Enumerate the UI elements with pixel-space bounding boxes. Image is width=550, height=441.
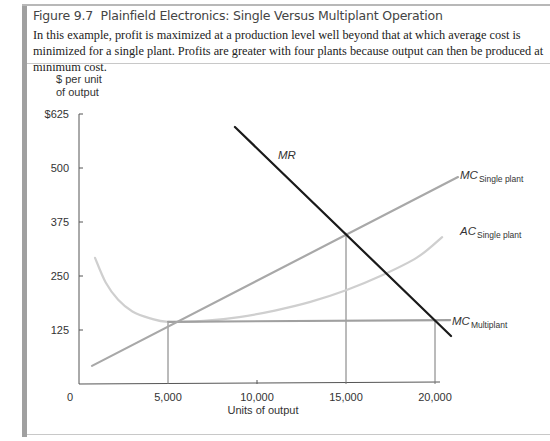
x-tick-label: 0 xyxy=(67,391,73,403)
ac-single-plant-label-sub: Single plant xyxy=(477,230,522,240)
mc-single-plant-curve xyxy=(92,177,458,366)
y-tick-label: 500 xyxy=(51,162,69,174)
mc-single-plant-label-main: MC xyxy=(460,169,479,181)
mc-multiplant-label-main: MC xyxy=(452,315,471,327)
mr-curve xyxy=(235,127,451,336)
mc-multiplant-label: MCMultiplant xyxy=(452,315,508,330)
ac-single-plant-curve xyxy=(95,237,442,322)
y-tick-label: 125 xyxy=(51,324,69,336)
x-tick-label: 5,000 xyxy=(154,391,182,403)
mc-single-plant-label: MCSingle plant xyxy=(460,169,524,184)
reference-lines xyxy=(168,233,435,384)
mr-label: MR xyxy=(278,149,296,161)
y-ticks: 125250375500$625 xyxy=(45,108,83,336)
series-group xyxy=(92,127,458,366)
mc-multiplant-label-sub: Multiplant xyxy=(471,320,508,330)
curve-labels: MRMCSingle plantACSingle plantMCMultipla… xyxy=(278,149,524,330)
y-tick-label: 250 xyxy=(51,270,69,282)
ac-single-plant-label: ACSingle plant xyxy=(459,225,522,240)
ac-single-plant-label-main: AC xyxy=(459,225,477,237)
x-tick-label: 20,000 xyxy=(418,391,452,403)
x-tick-label: 10,000 xyxy=(240,391,274,403)
x-axis xyxy=(79,382,440,384)
mr-label-main: MR xyxy=(278,149,296,161)
mc-single-plant-label-sub: Single plant xyxy=(479,174,524,184)
y-tick-label: 375 xyxy=(51,216,69,228)
y-axis-title-line2: of output xyxy=(56,86,99,98)
x-axis-title: Units of output xyxy=(228,404,299,416)
axes: 125250375500$625 05,00010,00015,00020,00… xyxy=(45,73,452,416)
economics-chart: 125250375500$625 05,00010,00015,00020,00… xyxy=(0,0,550,441)
y-tick-label: $625 xyxy=(45,108,69,120)
x-tick-label: 15,000 xyxy=(329,391,363,403)
y-axis-title-line1: $ per unit xyxy=(56,73,102,85)
